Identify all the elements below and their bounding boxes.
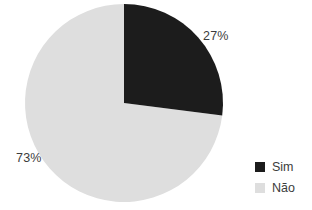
pie-slice-label-nao: 73% [16,152,42,165]
pie-slice-label-sim: 27% [203,30,229,43]
legend-item-nao[interactable]: Não [255,182,295,194]
legend-swatch-sim-icon [255,162,265,172]
pie-slices [25,4,223,202]
legend-label-nao: Não [272,182,295,195]
pie-chart: 27% 73% Sim Não [0,0,312,210]
legend-label-sim: Sim [272,161,294,174]
legend-item-sim[interactable]: Sim [255,161,295,173]
chart-legend: Sim Não [255,161,295,194]
legend-swatch-nao-icon [255,183,265,193]
pie-slice-sim[interactable] [124,4,223,115]
